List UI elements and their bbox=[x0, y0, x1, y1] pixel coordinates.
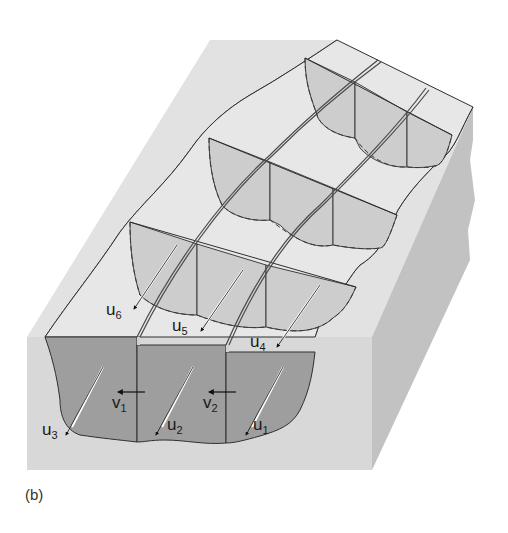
glacier-block-diagram: u6 u5 u4 u3 u2 u1 v1 v2 bbox=[0, 0, 508, 533]
figure-caption: (b) bbox=[25, 486, 43, 503]
